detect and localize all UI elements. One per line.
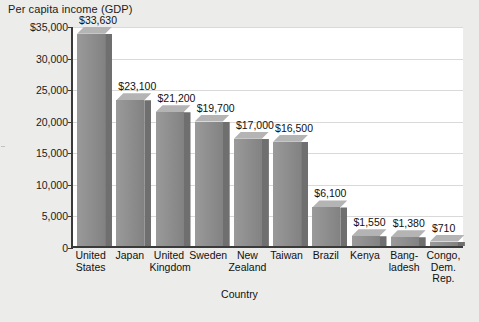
bar-top-face (234, 132, 269, 139)
bar (430, 235, 465, 246)
bar-series: $33,630$23,100$21,200$19,700$17,000$16,5… (73, 27, 463, 246)
bar (116, 93, 151, 246)
y-axis-tick-label: 25,000 (36, 84, 68, 96)
x-axis-tick-label: Brazil (306, 250, 345, 262)
y-axis-tick-label: 30,000 (36, 53, 68, 65)
bar-front-face (273, 142, 301, 246)
x-axis-tick-label: United Kingdom (149, 250, 188, 273)
bar-value-label: $23,100 (118, 80, 156, 92)
y-axis-tick-label: $35,000 (30, 21, 68, 33)
x-axis-tick-label: Sweden (189, 250, 228, 262)
bar-front-face (430, 242, 458, 246)
bar-front-face (195, 122, 223, 246)
bar-value-label: $1,550 (354, 216, 386, 228)
bar-value-label: $710 (432, 222, 455, 234)
bar-side-face (340, 207, 347, 246)
bar-side-face (262, 139, 269, 246)
bar-front-face (156, 112, 184, 246)
x-axis-tick-label: Taiwan (267, 250, 306, 262)
x-axis-tick-label: Kenya (345, 250, 384, 262)
bar-value-label: $16,500 (275, 122, 313, 134)
x-axis-tick-label: Japan (110, 250, 149, 262)
y-axis-tick-mark (68, 248, 73, 249)
x-axis-tick-label: Bang- ladesh (385, 250, 424, 273)
bar-value-label: $33,630 (79, 14, 117, 26)
bar-front-face (77, 34, 105, 246)
x-axis-tick-label: United States (71, 250, 110, 273)
bar-value-label: $21,200 (158, 92, 196, 104)
bar-front-face (312, 207, 340, 246)
bar-top-face (430, 235, 465, 242)
x-axis-tick-label: Congo, Dem. Rep. (424, 250, 463, 285)
bar (273, 135, 308, 246)
bar (77, 27, 112, 246)
bar-front-face (391, 237, 419, 246)
y-axis-tick-label: 10,000 (36, 179, 68, 191)
bar-top-face (352, 229, 387, 236)
bar-value-label: $19,700 (197, 102, 235, 114)
bar-side-face (223, 122, 230, 246)
x-axis-title: Country (0, 288, 479, 300)
bar-top-face (312, 200, 347, 207)
plot-area: $33,630$23,100$21,200$19,700$17,000$16,5… (71, 27, 463, 248)
bar-side-face (184, 112, 191, 246)
bar-top-face (273, 135, 308, 142)
bar-top-face (116, 93, 151, 100)
bar-front-face (116, 100, 144, 246)
bar-value-label: $6,100 (314, 187, 346, 199)
x-axis-tick-label: New Zealand (228, 250, 267, 273)
y-axis-tick-label: 5,000 (42, 210, 68, 222)
chart-figure: Per capita income (GDP) $35,00030,00025,… (0, 0, 479, 322)
bar (391, 230, 426, 246)
bar-side-face (458, 242, 465, 246)
bar-side-face (144, 100, 151, 246)
bar-top-face (195, 115, 230, 122)
bar (234, 132, 269, 246)
bar-side-face (105, 34, 112, 246)
bar (156, 105, 191, 246)
y-axis-tick-label: 20,000 (36, 116, 68, 128)
bar-top-face (391, 230, 426, 237)
bar-value-label: $17,000 (236, 119, 274, 131)
bar-side-face (419, 237, 426, 246)
bar-side-face (301, 142, 308, 246)
y-axis-tick-label: 15,000 (36, 147, 68, 159)
bar (312, 200, 347, 246)
bar-side-face (380, 236, 387, 246)
y-axis: $35,00030,00025,00020,00015,00010,0005,0… (0, 27, 68, 248)
bar-front-face (352, 236, 380, 246)
bar (352, 229, 387, 246)
bar-value-label: $1,380 (393, 217, 425, 229)
bar-front-face (234, 139, 262, 246)
bar-top-face (156, 105, 191, 112)
bar-top-face (77, 27, 112, 34)
bar (195, 115, 230, 246)
